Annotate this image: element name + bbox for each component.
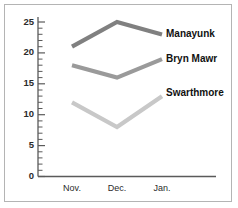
- y-tick-label-15: 15: [23, 77, 34, 88]
- y-tick-label-20: 20: [23, 46, 34, 57]
- chart-frame: 0 5 10 15 20 25 Nov. Dec. Jan. Manayunk …: [4, 4, 232, 202]
- y-tick-label-0: 0: [29, 170, 34, 181]
- y-tick-label-10: 10: [23, 108, 34, 119]
- x-tick-label-jan: Jan.: [153, 183, 170, 193]
- series-line-bryn-mawr: [72, 59, 162, 78]
- x-tick-label-nov: Nov.: [63, 183, 81, 193]
- y-tick-label-5: 5: [29, 139, 35, 150]
- series-line-manayunk: [72, 22, 162, 47]
- y-axis-major-ticks: [38, 22, 45, 177]
- line-chart: 0 5 10 15 20 25 Nov. Dec. Jan. Manayunk …: [5, 5, 231, 201]
- series-label-manayunk: Manayunk: [166, 28, 215, 39]
- y-tick-label-25: 25: [23, 16, 34, 27]
- y-axis-minor-ticks: [38, 28, 43, 170]
- x-tick-label-dec: Dec.: [108, 183, 127, 193]
- series-label-swarthmore: Swarthmore: [166, 87, 224, 98]
- series-label-bryn-mawr: Bryn Mawr: [166, 53, 217, 64]
- series-line-swarthmore: [72, 96, 162, 127]
